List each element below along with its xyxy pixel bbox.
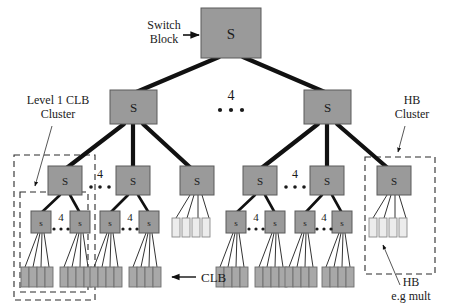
leaf-switch-s-2b[interactable]: s bbox=[139, 211, 159, 233]
switch-block-root-label: S bbox=[227, 26, 235, 42]
fanout-annotation-leaf-c4: 4 bbox=[315, 211, 332, 231]
switch-block-L1-3-label: S bbox=[194, 175, 200, 187]
clb-block[interactable] bbox=[346, 267, 354, 287]
edge-L2L-to-L1-3 bbox=[143, 124, 193, 170]
hb-cluster-label-line1: HB bbox=[404, 93, 421, 107]
clb-block[interactable] bbox=[60, 267, 68, 287]
edge-L1-4-to-s4a bbox=[236, 195, 255, 213]
clb-block[interactable] bbox=[232, 267, 240, 287]
switch-block-L1-2[interactable]: S bbox=[116, 166, 150, 195]
fanout-annotation-leaf-c1: 4 bbox=[52, 211, 69, 231]
leaf-switch-s-1b[interactable]: s bbox=[70, 211, 90, 233]
hb-block[interactable] bbox=[182, 218, 190, 237]
switch-block-label-line1: Switch bbox=[147, 18, 180, 32]
leaf-switch-s-5b[interactable]: s bbox=[332, 211, 352, 233]
switch-block-L2-right[interactable]: S bbox=[304, 90, 351, 124]
fanout-leaf-c1-value: 4 bbox=[58, 211, 64, 223]
leaf-switch-s-5b-label: s bbox=[340, 218, 344, 228]
clb-block[interactable] bbox=[338, 267, 346, 287]
leaf-switch-s-4a-label: s bbox=[234, 218, 238, 228]
clb-block[interactable] bbox=[285, 267, 293, 287]
switch-block-L1-2-label: S bbox=[130, 175, 136, 187]
edge-L1-5-to-s5a bbox=[305, 195, 322, 213]
hb-cluster-label-line2: Cluster bbox=[395, 107, 430, 121]
switch-block-L1-4-label: S bbox=[257, 175, 263, 187]
switch-block-L2-left[interactable]: S bbox=[110, 90, 157, 124]
clb-label: CLB bbox=[201, 270, 227, 285]
fanout-leaf-c3-ellipsis bbox=[247, 227, 264, 230]
clb-block[interactable] bbox=[309, 267, 317, 287]
fanout-leaf-c4-ellipsis bbox=[315, 227, 332, 230]
clb-block[interactable] bbox=[129, 267, 137, 287]
clb-block[interactable] bbox=[29, 267, 37, 287]
switch-block-L1-5[interactable]: S bbox=[310, 166, 344, 195]
leaf-switch-s-4b[interactable]: s bbox=[265, 211, 285, 233]
hb-block[interactable] bbox=[172, 218, 180, 237]
switch-block-label-line2: Block bbox=[150, 32, 179, 46]
edge-root-to-L2-right bbox=[243, 57, 327, 93]
hb-block[interactable] bbox=[202, 218, 210, 237]
level1-cluster-label-line1: Level 1 CLB bbox=[27, 93, 90, 107]
clb-block[interactable] bbox=[90, 267, 98, 287]
clb-block[interactable] bbox=[263, 267, 271, 287]
fanout-leaf-c3-value: 4 bbox=[253, 211, 259, 223]
switch-block-root[interactable]: S bbox=[201, 8, 261, 58]
edge-L2R-to-L1-6 bbox=[337, 124, 390, 170]
switch-block-L1-6[interactable]: S bbox=[377, 166, 411, 195]
hb-block[interactable] bbox=[192, 218, 200, 237]
clb-block[interactable] bbox=[106, 267, 114, 287]
edge-L2R-to-L1-4 bbox=[259, 124, 318, 170]
edge-L2L-to-L1-1 bbox=[64, 124, 124, 170]
clb-block[interactable] bbox=[114, 267, 122, 287]
clb-block[interactable] bbox=[76, 267, 84, 287]
clb-block[interactable] bbox=[37, 267, 45, 287]
clb-block[interactable] bbox=[301, 267, 309, 287]
callout-switch-block: Switch Block bbox=[147, 18, 199, 46]
clb-block[interactable] bbox=[98, 267, 106, 287]
fanout-annotation-leaf-c3: 4 bbox=[247, 211, 264, 231]
leaf-switch-s-1b-label: s bbox=[78, 218, 82, 228]
switch-block-L1-3[interactable]: S bbox=[180, 166, 214, 195]
leaf-switch-s-5a-label: s bbox=[303, 218, 307, 228]
switch-block-L1-4[interactable]: S bbox=[243, 166, 277, 195]
clb-block[interactable] bbox=[322, 267, 330, 287]
clb-block[interactable] bbox=[153, 267, 161, 287]
leaf-switch-s-4b-label: s bbox=[273, 218, 277, 228]
clb-block[interactable] bbox=[330, 267, 338, 287]
hb-block[interactable] bbox=[399, 218, 407, 237]
level1-cluster-label-line2: Cluster bbox=[41, 107, 76, 121]
edge-L1-4-to-s4b bbox=[265, 195, 275, 213]
hb-block[interactable] bbox=[369, 218, 377, 237]
fanout-leaf-c1-ellipsis bbox=[52, 227, 69, 230]
clb-block[interactable] bbox=[45, 267, 53, 287]
clb-block[interactable] bbox=[240, 267, 248, 287]
hb-example-arrow-icon bbox=[383, 245, 400, 285]
leaf-switch-s-1a-label: s bbox=[39, 218, 43, 228]
edge-L1-2-to-s2a bbox=[110, 195, 128, 213]
clb-block[interactable] bbox=[137, 267, 145, 287]
edge-L1-5-to-s5b bbox=[332, 195, 342, 213]
clb-block[interactable] bbox=[255, 267, 263, 287]
leaf-switch-s-2a[interactable]: s bbox=[100, 211, 120, 233]
edge-root-to-L2-left bbox=[134, 57, 219, 93]
fanout-leaf-c2-ellipsis bbox=[121, 227, 138, 230]
leaf-switch-s-2a-label: s bbox=[108, 218, 112, 228]
fanout-l1-left-value: 4 bbox=[97, 167, 103, 181]
diagram-canvas: S S S S S S S S S s s s bbox=[0, 0, 454, 307]
switch-block-L1-1[interactable]: S bbox=[48, 166, 82, 195]
fanout-annotation-l1-right: 4 bbox=[284, 167, 306, 189]
hb-block[interactable] bbox=[379, 218, 387, 237]
leaf-switch-s-5a[interactable]: s bbox=[295, 211, 315, 233]
switch-block-L1-5-label: S bbox=[324, 175, 330, 187]
clb-block[interactable] bbox=[271, 267, 279, 287]
clb-block[interactable] bbox=[145, 267, 153, 287]
clb-block[interactable] bbox=[68, 267, 76, 287]
hb-example-label-line2: e.g mult bbox=[391, 289, 431, 303]
switch-block-L1-6-label: S bbox=[391, 175, 397, 187]
clb-block[interactable] bbox=[21, 267, 29, 287]
leaf-switch-s-1a[interactable]: s bbox=[31, 211, 51, 233]
clb-block[interactable] bbox=[293, 267, 301, 287]
hb-block[interactable] bbox=[389, 218, 397, 237]
leaf-switch-s-4a[interactable]: s bbox=[226, 211, 246, 233]
hb-leaf-blocks bbox=[172, 218, 407, 237]
